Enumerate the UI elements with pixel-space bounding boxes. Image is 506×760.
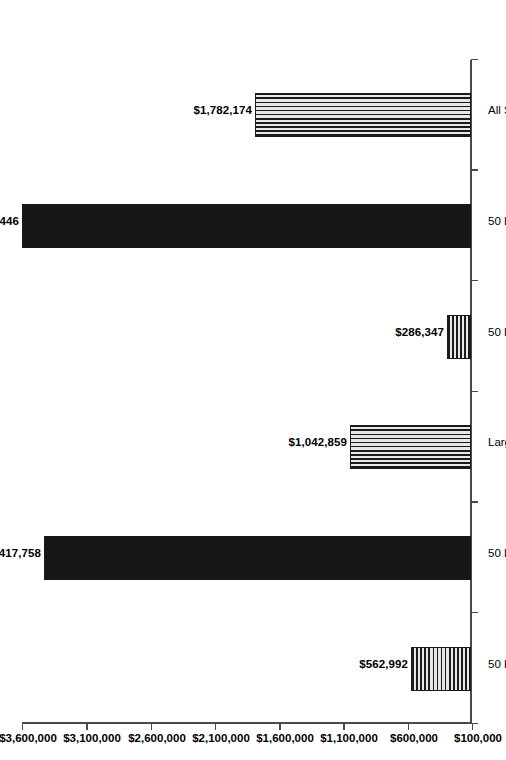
rotated-page-canvas: $562,99250 High Pr/bk, Large Stocks$3,41…	[0, 0, 506, 760]
value-tick	[343, 723, 344, 730]
category-tick	[471, 501, 478, 502]
bar-chart: $562,99250 High Pr/bk, Large Stocks$3,41…	[0, 0, 506, 760]
value-tick	[408, 723, 409, 730]
bar-value-label: $3,591,446	[0, 215, 19, 227]
value-tick-label: $100,000	[454, 732, 502, 744]
category-tick	[471, 612, 478, 613]
value-tick-label: $3,100,000	[64, 732, 122, 744]
value-tick	[86, 723, 87, 730]
category-tick	[471, 280, 478, 281]
value-tick	[215, 723, 216, 730]
value-tick	[22, 723, 23, 730]
value-tick	[279, 723, 280, 730]
category-label: Large Stocks	[488, 436, 506, 448]
category-tick	[471, 59, 478, 60]
value-axis-line	[22, 722, 472, 724]
value-tick-label: $600,000	[390, 732, 438, 744]
value-tick-label: $1,600,000	[256, 732, 314, 744]
value-tick-label: $2,600,000	[128, 732, 186, 744]
value-axis: $100,000$600,000$1,100,000$1,600,000$2,1…	[22, 60, 472, 724]
category-label: 50 Low Pr/bk, Large Stocks	[488, 547, 506, 559]
value-tick-label: $1,100,000	[321, 732, 379, 744]
value-tick	[472, 723, 473, 730]
value-tick-label: $3,600,000	[0, 732, 57, 744]
category-label: 50 High Pr/bk, All Stocks	[488, 326, 506, 338]
category-tick	[471, 391, 478, 392]
category-tick	[471, 169, 478, 170]
category-label: All Stocks	[488, 104, 506, 116]
category-label: 50 High Pr/bk, Large Stocks	[488, 658, 506, 670]
value-tick-label: $2,100,000	[192, 732, 250, 744]
value-tick	[151, 723, 152, 730]
category-label: 50 Low Pr/bk, All Stocks	[488, 215, 506, 227]
